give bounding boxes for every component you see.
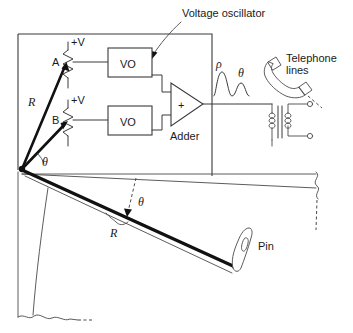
pot-a-label: A [52, 56, 60, 68]
vector-r-upper-label: R [27, 95, 36, 109]
ledge-break-dashes [316, 200, 317, 230]
schematic-canvas: Voltage oscillator A +V B +V R θ VO [0, 0, 353, 333]
transformer-primary-coil [269, 104, 275, 140]
adder-triangle [171, 83, 203, 126]
pulse-theta-label: θ [238, 66, 244, 80]
theta-upper-label: θ [42, 155, 48, 169]
adder-label: Adder [170, 130, 200, 142]
ledge-bottom-edge [22, 174, 316, 188]
rotating-arm [22, 170, 233, 266]
transformer-core [278, 106, 282, 138]
ledge-break-mark [315, 172, 318, 199]
telephone-handset-earpiece [268, 57, 281, 70]
pot-a-supply-label: +V [71, 36, 85, 48]
pot-b-label: B [52, 114, 59, 126]
arm-r-label: R [109, 226, 118, 240]
vo-bottom-to-adder-wire [152, 115, 171, 130]
telephone-handset-mouthpiece [299, 82, 312, 95]
vo-box-top-label: VO [120, 58, 136, 70]
voltage-oscillator-leader [153, 22, 181, 55]
adder-plus-symbol: + [178, 99, 184, 111]
terminal-top [307, 101, 312, 106]
schematic-figure: Voltage oscillator A +V B +V R θ VO [0, 0, 353, 333]
vo-box-bottom-label: VO [120, 116, 136, 128]
wall-break-bottom [18, 315, 78, 320]
rotating-arm-outline [25, 176, 232, 273]
pot-b-supply-label: +V [71, 94, 85, 106]
arm-theta-label: θ [138, 195, 144, 209]
telephone-lines-label-line1: Telephone [286, 52, 337, 64]
pot-a-resistor [63, 50, 73, 78]
vo-top-to-adder-wire [152, 75, 171, 92]
arm-theta-reference-line [128, 178, 136, 212]
pin-label: Pin [258, 240, 274, 252]
terminal-bottom [307, 133, 312, 138]
pulse-rho-label: ρ [215, 57, 222, 71]
telephone-lines-label-line2: lines [286, 64, 309, 76]
wall-right-edge [33, 188, 48, 315]
voltage-oscillator-label: Voltage oscillator [182, 7, 265, 19]
